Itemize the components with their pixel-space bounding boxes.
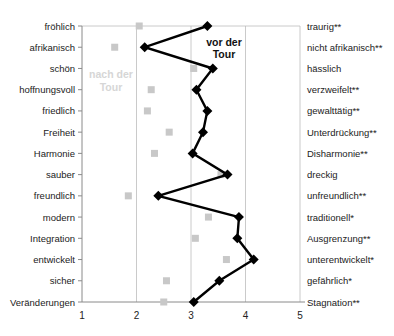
right-category-label: nicht afrikanisch** [307, 42, 383, 53]
left-category-label: Integration [30, 233, 75, 244]
square-marker-icon [160, 299, 167, 306]
x-axis-tick-labels: 12345 [79, 310, 303, 321]
x-tick-label: 4 [243, 310, 249, 321]
square-marker-icon [151, 150, 158, 157]
series-vor-der-tour [140, 21, 259, 307]
square-marker-icon [205, 214, 212, 221]
left-category-label: fröhlich [44, 21, 75, 32]
right-category-label: dreckig [307, 169, 338, 180]
left-category-label: friedlich [42, 105, 75, 116]
x-tick-label: 3 [188, 310, 194, 321]
semantic-differential-chart: fröhlichafrikanischschönhoffnungsvollfri… [0, 0, 394, 336]
right-category-label: verzweifelt** [307, 84, 360, 95]
left-category-label: freundlich [34, 190, 75, 201]
left-category-label: Veränderungen [10, 297, 75, 308]
left-category-label: sauber [46, 169, 75, 180]
left-category-label: hoffnungsvoll [19, 84, 75, 95]
square-marker-icon [111, 44, 118, 51]
x-tick-label: 2 [134, 310, 140, 321]
diamond-marker-icon [198, 127, 208, 137]
square-marker-icon [192, 235, 199, 242]
diamond-marker-icon [202, 21, 212, 31]
annotation-vor-der-tour-line2: Tour [213, 48, 236, 60]
right-category-label: traurig** [307, 21, 342, 32]
diamond-marker-icon [202, 106, 212, 116]
annotation-nach-der-tour-line2: Tour [100, 81, 123, 93]
square-marker-icon [125, 192, 132, 199]
right-category-label: gewalttätig** [307, 105, 360, 116]
square-marker-icon [136, 23, 143, 30]
right-category-label: Stagnation** [307, 297, 360, 308]
left-category-label: sicher [50, 275, 75, 286]
right-category-label: Disharmonie** [307, 148, 368, 159]
left-category-label: entwickelt [33, 254, 75, 265]
square-marker-icon [190, 65, 197, 72]
right-category-label: Unterdrückung** [307, 127, 377, 138]
square-marker-icon [166, 129, 173, 136]
square-marker-icon [163, 277, 170, 284]
square-marker-icon [144, 107, 151, 114]
right-category-label: unterentwickelt* [307, 254, 374, 265]
left-category-label: Harmonie [34, 148, 75, 159]
right-category-label: unfreundlich** [307, 190, 366, 201]
x-tick-label: 1 [79, 310, 85, 321]
right-category-label: gefährlich* [307, 275, 352, 286]
left-category-label: afrikanisch [30, 42, 75, 53]
diamond-marker-icon [234, 212, 244, 222]
diamond-marker-icon [153, 191, 163, 201]
right-category-label: Ausgrenzung** [307, 233, 371, 244]
right-category-label: hässlich [307, 63, 341, 74]
left-category-label: schön [50, 63, 75, 74]
left-category-label: modern [43, 212, 75, 223]
left-category-label: Freiheit [43, 127, 75, 138]
x-tick-label: 5 [297, 310, 303, 321]
left-category-labels: fröhlichafrikanischschönhoffnungsvollfri… [10, 21, 75, 308]
diamond-marker-icon [140, 42, 150, 52]
right-category-labels: traurig**nicht afrikanisch**hässlichverz… [307, 21, 383, 308]
square-marker-icon [223, 256, 230, 263]
square-marker-icon [148, 86, 155, 93]
annotation-vor-der-tour: vor der [206, 36, 242, 48]
series-line [145, 26, 254, 302]
right-category-label: traditionell* [307, 212, 354, 223]
annotation-nach-der-tour: nach der [89, 68, 133, 80]
